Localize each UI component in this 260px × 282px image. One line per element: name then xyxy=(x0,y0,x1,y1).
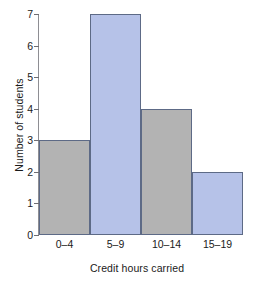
y-axis-tick-label: 7 xyxy=(27,9,33,20)
x-axis-tick-label: 10–14 xyxy=(152,239,181,250)
y-axis-tick-label: 5 xyxy=(27,72,33,83)
x-axis-tick-label: 0–4 xyxy=(56,239,74,250)
histogram-figure: Number of students 01234567 0–45–910–141… xyxy=(0,0,260,282)
y-axis-tick-label: 3 xyxy=(27,135,33,146)
y-axis-tick-label: 0 xyxy=(27,230,33,241)
y-axis-tick-label: 6 xyxy=(27,40,33,51)
y-axis-tick-mark xyxy=(34,235,39,236)
histogram-bar xyxy=(192,172,243,235)
y-axis-tick-label: 4 xyxy=(27,103,33,114)
y-axis-tick-label: 1 xyxy=(27,198,33,209)
histogram-bar xyxy=(141,109,192,235)
x-axis-tick-label: 5–9 xyxy=(107,239,125,250)
bars-group xyxy=(39,14,243,235)
y-axis-label: Number of students xyxy=(13,50,25,200)
y-axis-tick-label: 2 xyxy=(27,167,33,178)
plot-area: 01234567 0–45–910–1415–19 xyxy=(38,12,243,235)
x-axis-label: Credit hours carried xyxy=(31,262,243,274)
histogram-bar xyxy=(90,14,141,235)
x-axis-tick-label: 15–19 xyxy=(203,239,232,250)
histogram-bar xyxy=(39,140,90,235)
